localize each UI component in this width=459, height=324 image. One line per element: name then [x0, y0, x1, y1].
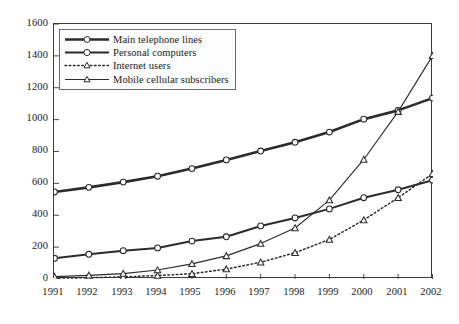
series-line-1 [55, 180, 433, 258]
data-point [429, 53, 433, 59]
legend-label: Personal computers [113, 47, 196, 58]
chart-legend: Main telephone lines Personal computers … [59, 29, 236, 90]
y-tick-label: 1000 [27, 113, 48, 124]
data-point [189, 166, 195, 172]
data-point [361, 217, 367, 223]
x-tick-label: 2002 [420, 286, 441, 297]
y-tick-label: 600 [32, 177, 48, 188]
x-axis: 1991 1992 1993 1994 1995 1996 1997 1998 … [0, 286, 459, 306]
legend-key-line-circle-medium [64, 46, 110, 59]
legend-item-mobile-cellular-subscribers: Mobile cellular subscribers [64, 73, 231, 86]
data-point [257, 240, 263, 246]
y-tick-label: 400 [32, 209, 48, 220]
data-point [155, 173, 161, 179]
data-point [292, 139, 298, 145]
x-tick-label: 1999 [317, 286, 338, 297]
data-point [395, 187, 401, 193]
x-tick-label: 1992 [76, 286, 97, 297]
data-point [361, 195, 367, 201]
legend-item-main-telephone-lines: Main telephone lines [64, 33, 231, 46]
x-tick-label: 2001 [386, 286, 407, 297]
y-tick-label: 1200 [27, 82, 48, 93]
x-tick-label: 2000 [351, 286, 372, 297]
data-point [189, 238, 195, 244]
legend-item-personal-computers: Personal computers [64, 46, 231, 59]
legend-key-line-circle-thick [64, 33, 110, 46]
data-point [54, 255, 57, 261]
y-tick-label: 0 [43, 273, 48, 284]
x-tick-label: 1998 [283, 286, 304, 297]
data-point [430, 95, 433, 101]
data-point [327, 206, 333, 212]
x-tick-label: 1995 [179, 286, 200, 297]
x-tick-label: 1991 [42, 286, 63, 297]
y-tick-label: 200 [32, 241, 48, 252]
x-tick-label: 1996 [214, 286, 235, 297]
y-tick-label: 1400 [27, 50, 48, 61]
data-point [430, 177, 433, 183]
legend-label: Internet users [113, 60, 171, 71]
data-point [361, 116, 367, 122]
line-chart: 1600 1400 1200 1000 800 600 400 200 0 19… [0, 0, 459, 324]
x-tick-label: 1993 [111, 286, 132, 297]
data-point [86, 251, 92, 257]
legend-key-line-triangle-dotted [64, 59, 110, 72]
legend-key-line-triangle-thin [64, 73, 110, 86]
data-point [120, 248, 126, 254]
data-point [327, 129, 333, 135]
data-point [223, 234, 229, 240]
data-point [223, 157, 229, 163]
data-point [54, 189, 57, 195]
legend-label: Mobile cellular subscribers [113, 74, 229, 85]
y-tick-label: 800 [32, 145, 48, 156]
y-tick-label: 1600 [27, 18, 48, 29]
data-point [258, 223, 264, 229]
data-point [120, 179, 126, 185]
data-point [395, 195, 401, 201]
legend-item-internet-users: Internet users [64, 59, 231, 72]
series-line-2 [55, 174, 433, 278]
data-point [86, 184, 92, 190]
data-point [429, 171, 433, 177]
data-point [258, 148, 264, 154]
x-tick-label: 1994 [145, 286, 166, 297]
series-line-0 [55, 98, 433, 192]
data-point [292, 215, 298, 221]
y-axis: 1600 1400 1200 1000 800 600 400 200 0 [0, 0, 48, 324]
data-point [326, 236, 332, 242]
x-tick-label: 1997 [248, 286, 269, 297]
x-tick-marks [55, 274, 433, 279]
legend-label: Main telephone lines [113, 34, 202, 45]
data-point [155, 245, 161, 251]
